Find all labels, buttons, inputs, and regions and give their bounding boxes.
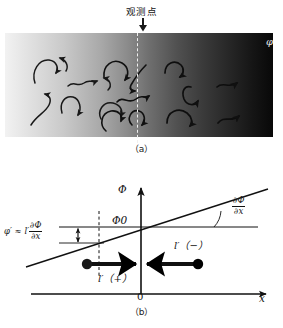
- y-axis-label: Φ: [118, 184, 127, 195]
- parcel-marker-left: [82, 259, 92, 269]
- displacement-negative-label: l′（−）: [174, 241, 208, 251]
- scalar-field-gradient: [5, 33, 273, 137]
- slope-denominator: ∂x: [232, 207, 245, 217]
- observation-point-label: 观测点: [0, 4, 283, 18]
- x-axis-label: x: [259, 293, 265, 304]
- panel-b-drawing: [0, 164, 283, 328]
- displacement-positive-label: l′（+）: [98, 274, 132, 284]
- caption-b: （b）: [0, 305, 283, 318]
- eddy-arrows-layer: [5, 33, 273, 137]
- parcel-marker-right: [193, 259, 203, 269]
- slope-angle-arc: [214, 211, 221, 227]
- fluctuation-lead: φ′ ≈ l′: [4, 226, 29, 236]
- caption-a: （a）: [0, 142, 283, 155]
- panel-b-gradient-diagram: Φ Φ0 x 0 l′（+） l′（−） ∂Φ ∂x φ′ ≈ l′ ∂Φ ∂x…: [0, 164, 283, 328]
- fluctuation-denominator: ∂x: [29, 232, 42, 242]
- figure-root: 观测点: [0, 0, 283, 328]
- fluctuation-expression: φ′ ≈ l′ ∂Φ ∂x: [4, 221, 42, 242]
- field-phi-symbol: φ: [266, 36, 273, 47]
- origin-label: 0: [137, 292, 143, 302]
- down-arrow-icon: [138, 18, 148, 32]
- panel-a-turbulent-field: 观测点: [0, 0, 283, 164]
- observation-dashed-line: [137, 33, 138, 143]
- phi0-label: Φ0: [112, 215, 127, 226]
- slope-expression: ∂Φ ∂x: [232, 196, 245, 217]
